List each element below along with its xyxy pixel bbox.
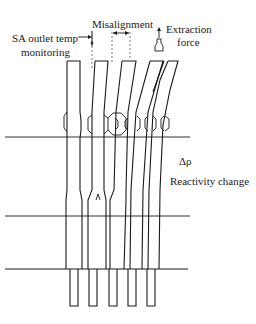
- subassembly-diagram: SA outlet temp monitoring Misalignment E…: [0, 0, 256, 324]
- sa-outlet-label-2: monitoring: [21, 46, 70, 58]
- misalignment-indicator: [112, 31, 130, 62]
- sa-outlet-label-1: SA outlet temp: [12, 32, 79, 44]
- delta-rho-label: Δρ: [179, 155, 192, 167]
- hexagon-pad: [108, 113, 126, 135]
- misalignment-label: Misalignment: [92, 18, 153, 30]
- reactivity-label: Reactivity change: [170, 175, 249, 187]
- extraction-label-1: Extraction: [166, 23, 212, 35]
- extraction-label-2: force: [177, 36, 200, 48]
- extraction-force-indicator: [155, 27, 163, 51]
